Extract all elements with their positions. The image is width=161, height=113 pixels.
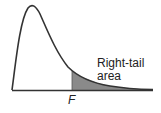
density-curve: [12, 6, 153, 90]
right-tail-label-line2: area: [97, 70, 121, 83]
f-distribution-diagram: Right-tail area F: [0, 0, 161, 113]
critical-value-label: F: [68, 94, 75, 107]
